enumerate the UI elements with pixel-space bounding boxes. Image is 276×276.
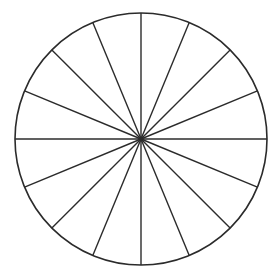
center-point	[139, 137, 144, 142]
sector-diagram	[0, 0, 276, 276]
spoke-line	[52, 139, 141, 228]
spoke-line	[141, 139, 230, 228]
circle-divided-into-sectors	[0, 0, 276, 276]
spoke-line	[52, 50, 141, 139]
spoke-line	[141, 50, 230, 139]
